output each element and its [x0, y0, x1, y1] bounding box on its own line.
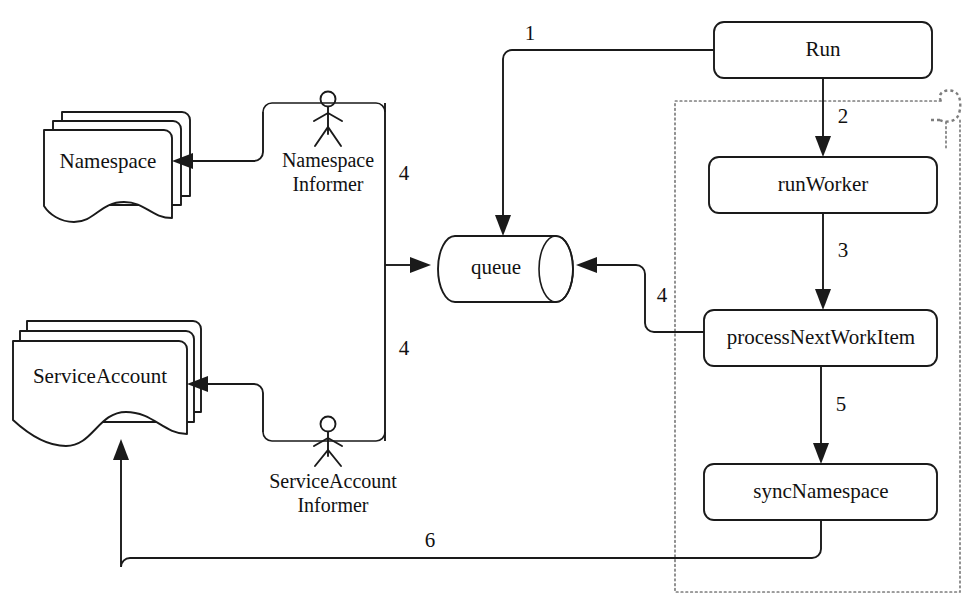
run-node: Run	[714, 22, 932, 78]
edge-informers-to-queue: 4 4	[385, 103, 431, 441]
edge-label-7: 6	[425, 528, 436, 552]
namespace-informer-label-line2: Informer	[292, 173, 363, 195]
edge-label-3: 3	[838, 238, 849, 262]
edge-line	[190, 112, 263, 161]
edge-process-next-work-item-to-sync-namespace: 5	[813, 366, 846, 464]
arrowhead-icon	[410, 257, 431, 273]
serviceaccount-document-stack: ServiceAccount	[13, 321, 201, 446]
serviceaccount-informer-actor: ServiceAccount Informer	[263, 417, 397, 516]
namespace-doc-front	[44, 130, 172, 222]
queue-node: queue	[438, 236, 573, 302]
edge-line	[503, 50, 714, 218]
flow-diagram-svg: Namespace ServiceAccount Namespace Infor…	[0, 0, 980, 604]
serviceaccount-informer-head-icon	[321, 417, 336, 432]
edge-label-4-top: 4	[399, 161, 410, 185]
process-next-work-item-node-label: processNextWorkItem	[727, 325, 915, 349]
arrowhead-icon	[113, 439, 129, 460]
edge-run-worker-to-process-next-work-item: 3	[815, 213, 848, 310]
sync-namespace-node-label: syncNamespace	[753, 479, 888, 503]
boundary-hook-icon	[940, 90, 960, 121]
namespace-informer-head-icon	[321, 92, 336, 107]
serviceaccount-informer-label-line2: Informer	[297, 494, 368, 516]
arrowhead-icon	[815, 136, 831, 157]
serviceaccount-informer-label-line1: ServiceAccount	[269, 470, 397, 492]
edge-line	[594, 265, 704, 332]
namespace-informer-actor: Namespace Informer	[263, 92, 385, 195]
serviceaccount-document-label: ServiceAccount	[33, 364, 167, 388]
edge-process-next-work-item-to-queue: 4	[576, 257, 704, 332]
edge-label-4-bottom: 4	[399, 336, 410, 360]
edge-label-6: 5	[836, 392, 847, 416]
arrowhead-icon	[815, 289, 831, 310]
edge-run-to-queue: 1	[495, 21, 714, 236]
edge-run-to-run-worker: 2	[815, 78, 848, 157]
run-worker-node: runWorker	[709, 157, 937, 213]
edge-label-5: 4	[657, 283, 668, 307]
edge-label-1: 1	[525, 21, 536, 45]
serviceaccount-doc-front	[13, 341, 187, 446]
arrowhead-icon	[813, 443, 829, 464]
sync-namespace-node: syncNamespace	[704, 464, 937, 520]
edge-line	[121, 520, 821, 567]
queue-node-label: queue	[471, 255, 521, 279]
edge-label-2: 2	[838, 104, 849, 128]
arrowhead-icon	[495, 215, 511, 236]
run-node-label: Run	[805, 37, 841, 61]
arrowhead-icon	[576, 257, 597, 273]
namespace-document-label: Namespace	[60, 149, 157, 173]
namespace-document-stack: Namespace	[44, 112, 190, 222]
diagram-canvas: Namespace ServiceAccount Namespace Infor…	[0, 0, 980, 604]
edge-line	[205, 384, 263, 432]
process-next-work-item-node: processNextWorkItem	[704, 310, 937, 366]
namespace-informer-label-line1: Namespace	[282, 149, 374, 172]
run-worker-node-label: runWorker	[778, 172, 868, 196]
